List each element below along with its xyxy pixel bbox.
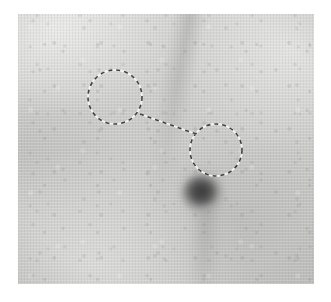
figure-root bbox=[0, 0, 331, 302]
right-annotation-circle-underlay bbox=[190, 124, 242, 176]
annotation-group bbox=[88, 70, 242, 176]
annotation-layer bbox=[18, 14, 314, 284]
image-plate bbox=[18, 14, 314, 284]
